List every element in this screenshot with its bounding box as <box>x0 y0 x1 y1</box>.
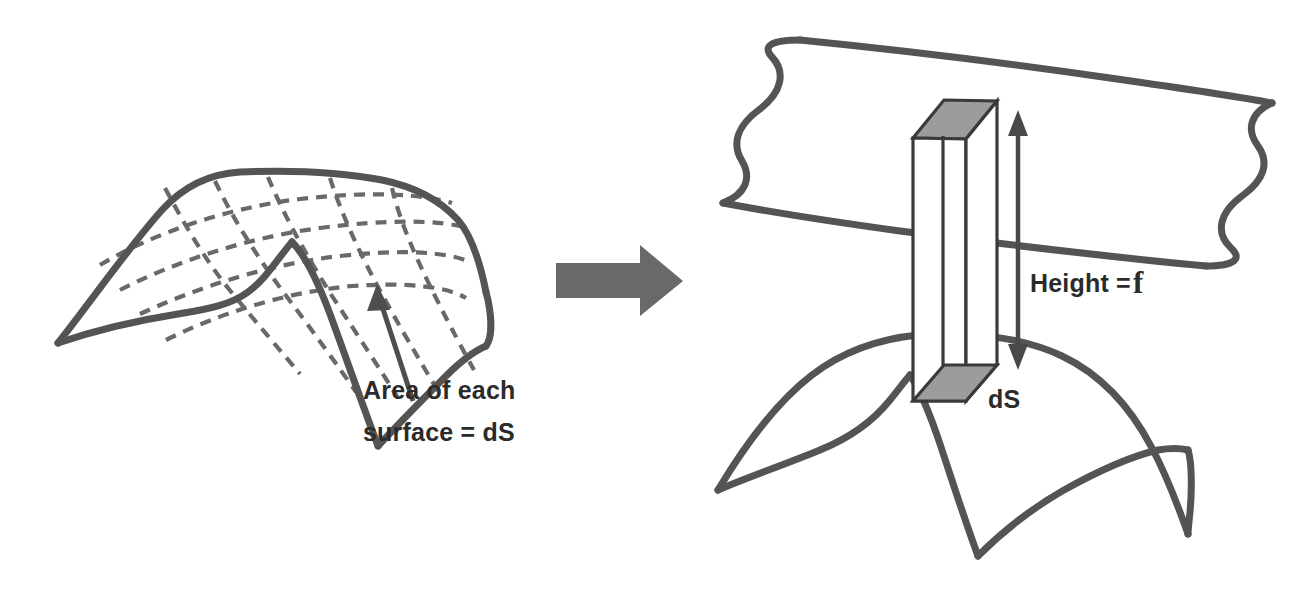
surface-integral-figure: Area of each surface = dS <box>0 0 1316 600</box>
surface-grid-dashed <box>100 177 474 398</box>
right-panel-prism-diagram: Height = f dS <box>718 40 1272 556</box>
area-label-line2: surface = dS <box>363 418 515 446</box>
prism-right-face <box>966 101 997 401</box>
prism-front-face <box>913 138 966 401</box>
height-label-group: Height = f <box>1030 265 1144 300</box>
height-arrow-double <box>1008 110 1028 370</box>
diagram-canvas: Area of each surface = dS <box>0 0 1316 600</box>
surface-outline <box>58 171 491 446</box>
area-label-line1: Area of each <box>363 376 515 404</box>
height-label: Height = <box>1030 269 1131 297</box>
left-panel-subdivided-surface: Area of each surface = dS <box>58 171 515 446</box>
prism-column <box>913 100 997 401</box>
base-area-label: dS <box>988 385 1020 413</box>
height-symbol-f: f <box>1133 265 1144 300</box>
transition-block-arrow[interactable] <box>556 245 683 316</box>
